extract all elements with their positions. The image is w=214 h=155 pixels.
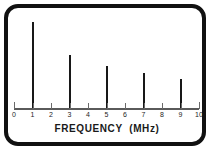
x-axis-tick xyxy=(181,103,182,109)
x-axis-tick xyxy=(51,103,52,109)
spectrum-figure-screenshot: 012345678910 FREQUENCY (MHz) xyxy=(0,0,214,155)
x-axis-tick-label: 8 xyxy=(155,110,169,119)
x-axis-tick-label: 10 xyxy=(192,110,206,119)
x-axis-tick xyxy=(125,103,126,109)
x-axis-tick-label: 0 xyxy=(7,110,21,119)
spectral-line xyxy=(32,22,34,110)
x-axis-tick xyxy=(14,102,15,109)
x-axis-tick xyxy=(144,103,145,109)
x-axis-tick xyxy=(107,103,108,109)
spectral-line xyxy=(69,55,71,110)
x-axis-tick xyxy=(70,103,71,109)
x-axis-tick-label: 9 xyxy=(174,110,188,119)
x-axis-tick xyxy=(199,102,200,109)
x-axis-tick-label: 1 xyxy=(26,110,40,119)
x-axis-tick-label: 7 xyxy=(137,110,151,119)
spectrum-plot: 012345678910 FREQUENCY (MHz) xyxy=(0,0,214,155)
x-axis-tick-label: 4 xyxy=(81,110,95,119)
x-axis-title: FREQUENCY (MHz) xyxy=(0,122,214,135)
x-axis-tick xyxy=(88,103,89,109)
x-axis-tick xyxy=(33,103,34,109)
x-axis-tick-label: 6 xyxy=(118,110,132,119)
x-axis-tick-label: 2 xyxy=(44,110,58,119)
x-axis-tick xyxy=(162,103,163,109)
x-axis-tick-label: 5 xyxy=(100,110,114,119)
x-axis-tick-label: 3 xyxy=(63,110,77,119)
